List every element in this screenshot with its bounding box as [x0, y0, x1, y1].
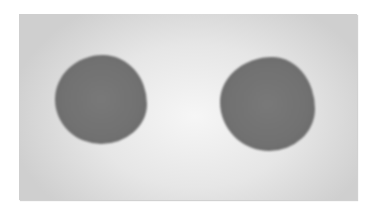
card — [19, 14, 357, 200]
right-spot — [220, 57, 315, 151]
left-spot — [55, 55, 147, 144]
